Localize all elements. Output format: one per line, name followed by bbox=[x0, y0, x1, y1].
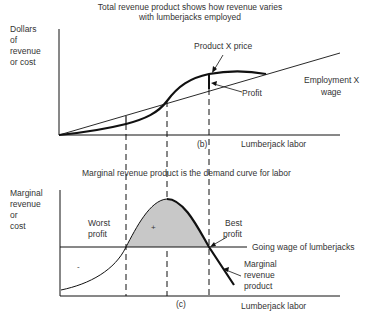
top-ylabel-4: or cost bbox=[10, 57, 36, 67]
bottom-ylabel-1: Marginal bbox=[10, 188, 43, 198]
mrp-label-2: revenue bbox=[244, 270, 275, 280]
total-revenue-curve bbox=[59, 71, 266, 135]
best-profit-label-1: Best bbox=[225, 218, 242, 228]
top-xlabel: Lumberjack labor bbox=[241, 139, 306, 149]
best-profit-label-2: profit bbox=[223, 229, 242, 239]
bottom-ylabel-2: revenue bbox=[10, 199, 41, 209]
bottom-xlabel: Lumberjack labor bbox=[241, 301, 306, 311]
worst-profit-label-1: Worst bbox=[88, 218, 110, 228]
employment-wage-label-1: Employment X bbox=[304, 75, 359, 85]
top-panel-tag: (b) bbox=[197, 139, 207, 149]
going-wage-label: Going wage of lumberjacks bbox=[252, 242, 355, 252]
product-price-label: Product X price bbox=[194, 41, 252, 51]
profit-label: Profit bbox=[242, 88, 262, 98]
profit-arrow bbox=[214, 84, 242, 92]
top-title-line2: with lumberjacks employed bbox=[60, 12, 320, 22]
product-price-arrow bbox=[214, 55, 223, 70]
diagram-canvas bbox=[0, 0, 373, 316]
employment-wage-line bbox=[59, 53, 340, 135]
bottom-ylabel-4: cost bbox=[10, 221, 26, 231]
bottom-title: Marginal revenue product is the demand c… bbox=[82, 168, 291, 178]
profit-shaded-area bbox=[126, 199, 209, 247]
minus-sign: - bbox=[77, 262, 80, 272]
top-ylabel-1: Dollars bbox=[10, 24, 36, 34]
top-ylabel-3: revenue bbox=[10, 46, 41, 56]
mrp-label-3: product bbox=[244, 281, 272, 291]
plus-sign: + bbox=[151, 223, 156, 233]
best-profit-arrowhead bbox=[210, 242, 216, 247]
bottom-ylabel-3: or bbox=[10, 210, 18, 220]
worst-profit-label-2: profit bbox=[88, 229, 107, 239]
top-title-line1: Total revenue product shows how revenue … bbox=[60, 2, 320, 12]
top-ylabel-2: of bbox=[10, 35, 17, 45]
employment-wage-label-2: wage bbox=[321, 87, 341, 97]
mrp-label-1: Marginal bbox=[244, 259, 277, 269]
bottom-panel-tag: (c) bbox=[176, 299, 186, 309]
profit-arrowhead bbox=[211, 81, 217, 86]
